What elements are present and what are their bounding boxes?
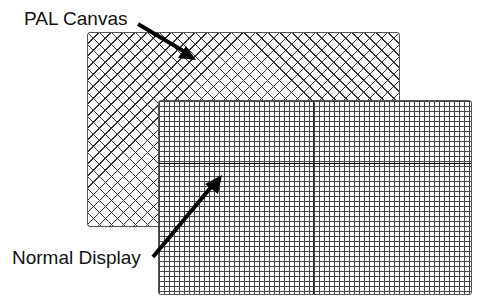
pal-arrow-icon: [138, 24, 196, 60]
normal-arrow-icon: [153, 175, 222, 257]
arrows: [0, 0, 484, 306]
